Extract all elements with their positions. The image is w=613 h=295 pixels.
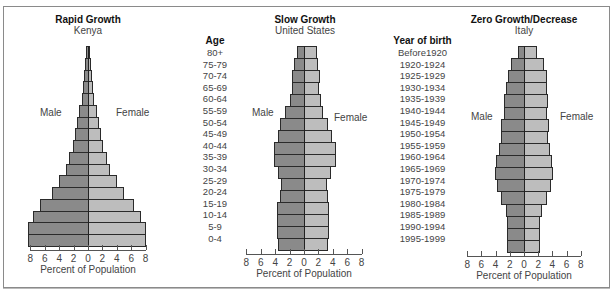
age-label: 30-34: [190, 163, 240, 174]
x-tick-us: [261, 249, 262, 254]
x-tick-italy: [538, 251, 539, 256]
age-label: 55-59: [190, 105, 240, 116]
age-label: 35-39: [190, 151, 240, 162]
birth-year-label: 1985-1989: [385, 209, 460, 220]
x-axis-kenya: [30, 250, 145, 251]
x-tick-italy: [567, 251, 568, 256]
x-tick-kenya: [30, 245, 31, 250]
x-tick-label-kenya: 2: [95, 253, 109, 264]
x-tick-label-italy: 6: [474, 259, 488, 270]
age-label: 70-74: [190, 70, 240, 81]
x-tick-label-us: 4: [326, 257, 340, 268]
x-tick-label-us: 6: [340, 257, 354, 268]
age-label: 15-19: [190, 198, 240, 209]
birth-year-label: 1925-1929: [385, 70, 460, 81]
female-label-italy: Female: [560, 111, 593, 122]
x-axis-us: [246, 254, 361, 255]
age-label: 45-49: [190, 128, 240, 139]
chart-subtitle-kenya: Kenya: [38, 25, 138, 36]
age-label: 20-24: [190, 186, 240, 197]
center-axis-italy: [524, 46, 525, 256]
x-tick-label-italy: 8: [574, 259, 588, 270]
x-tick-us: [290, 249, 291, 254]
x-tick-label-us: 6: [254, 257, 268, 268]
x-tick-us: [246, 249, 247, 254]
chart-subtitle-us: United States: [255, 25, 355, 36]
birth-year-label: 1990-1994: [385, 221, 460, 232]
chart-title-kenya: Rapid Growth: [38, 14, 138, 25]
x-tick-label-italy: 0: [517, 259, 531, 270]
x-tick-label-kenya: 6: [124, 253, 138, 264]
male-label-italy: Male: [471, 111, 493, 122]
x-tick-italy: [524, 251, 525, 256]
x-tick-label-us: 2: [283, 257, 297, 268]
axis-title-kenya: Percent of Population: [28, 264, 148, 275]
birth-year-label: 1965-1969: [385, 163, 460, 174]
x-tick-label-us: 0: [297, 257, 311, 268]
x-tick-label-kenya: 0: [81, 253, 95, 264]
bar-male-us: [278, 238, 304, 251]
x-tick-label-italy: 8: [460, 259, 474, 270]
axis-title-us: Percent of Population: [244, 268, 364, 279]
x-tick-us: [333, 249, 334, 254]
x-tick-kenya: [102, 245, 103, 250]
age-label: 25-29: [190, 175, 240, 186]
x-tick-us: [362, 249, 363, 254]
x-tick-label-us: 2: [311, 257, 325, 268]
x-tick-kenya: [131, 245, 132, 250]
birth-year-label: 1975-1979: [385, 186, 460, 197]
male-label-kenya: Male: [40, 107, 62, 118]
female-label-kenya: Female: [116, 107, 149, 118]
x-tick-label-italy: 4: [489, 259, 503, 270]
x-tick-label-kenya: 8: [139, 253, 153, 264]
x-tick-italy: [467, 251, 468, 256]
axis-title-italy: Percent of Population: [464, 270, 584, 281]
x-tick-kenya: [59, 245, 60, 250]
x-tick-us: [347, 249, 348, 254]
chart-subtitle-italy: Italy: [466, 25, 582, 36]
x-tick-italy: [481, 251, 482, 256]
age-label: 0-4: [190, 233, 240, 244]
age-label: 60-64: [190, 93, 240, 104]
birth-year-label: 1970-1974: [385, 175, 460, 186]
x-tick-us: [275, 249, 276, 254]
birth-column-header: Year of birth: [385, 35, 460, 46]
x-tick-label-italy: 6: [560, 259, 574, 270]
age-column-header: Age: [190, 35, 240, 46]
birth-year-label: 1930-1934: [385, 82, 460, 93]
x-tick-italy: [581, 251, 582, 256]
birth-year-label: 1935-1939: [385, 93, 460, 104]
birth-year-label: 1960-1964: [385, 151, 460, 162]
center-axis-kenya: [88, 46, 89, 250]
chart-title-us: Slow Growth: [255, 14, 355, 25]
x-tick-italy: [510, 251, 511, 256]
x-tick-label-kenya: 8: [23, 253, 37, 264]
x-tick-kenya: [88, 245, 89, 250]
age-label: 80+: [190, 47, 240, 58]
birth-year-label: 1945-1949: [385, 117, 460, 128]
x-tick-label-kenya: 6: [38, 253, 52, 264]
birth-year-label: Before1920: [385, 47, 460, 58]
x-tick-label-us: 8: [355, 257, 369, 268]
birth-year-label: 1950-1954: [385, 128, 460, 139]
age-label: 50-54: [190, 117, 240, 128]
bar-female-us: [304, 238, 328, 251]
x-tick-label-kenya: 4: [110, 253, 124, 264]
age-label: 40-44: [190, 140, 240, 151]
birth-year-label: 1980-1984: [385, 198, 460, 209]
x-tick-kenya: [45, 245, 46, 250]
x-tick-label-italy: 2: [503, 259, 517, 270]
birth-year-label: 1920-1924: [385, 59, 460, 70]
x-tick-kenya: [74, 245, 75, 250]
chart-title-italy: Zero Growth/Decrease: [466, 14, 582, 25]
age-label: 65-69: [190, 82, 240, 93]
x-tick-kenya: [117, 245, 118, 250]
female-label-us: Female: [334, 112, 367, 123]
x-tick-label-us: 8: [239, 257, 253, 268]
x-tick-label-italy: 4: [545, 259, 559, 270]
x-tick-italy: [496, 251, 497, 256]
x-tick-label-italy: 2: [531, 259, 545, 270]
x-tick-label-kenya: 4: [52, 253, 66, 264]
male-label-us: Male: [252, 107, 274, 118]
birth-year-label: 1940-1944: [385, 105, 460, 116]
